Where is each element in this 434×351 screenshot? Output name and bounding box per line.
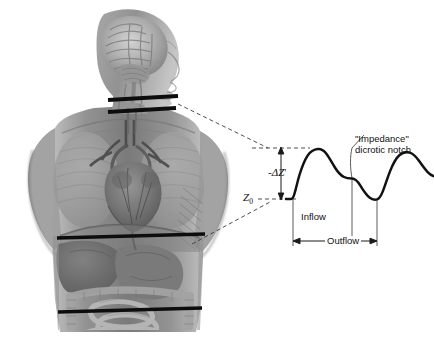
impedance-waveform-chart bbox=[0, 0, 434, 351]
inflow-label: Inflow bbox=[301, 212, 326, 223]
leader-lines bbox=[178, 104, 270, 244]
dicrotic-notch-label: dicrotic notch bbox=[355, 145, 411, 156]
dicrotic-notch-pointer-curve bbox=[351, 148, 353, 178]
impedance-cardiography-figure: "Impedance" dicrotic notch Inflow Outflo… bbox=[0, 0, 434, 351]
outflow-label: Outflow bbox=[325, 236, 361, 247]
delta-z-label: -ΔZ' bbox=[268, 166, 286, 178]
z-zero-label: Z0 bbox=[243, 191, 253, 207]
upper-leader-line bbox=[178, 104, 268, 148]
lower-leader-line bbox=[192, 202, 270, 244]
impedance-waveform-line bbox=[286, 149, 434, 200]
